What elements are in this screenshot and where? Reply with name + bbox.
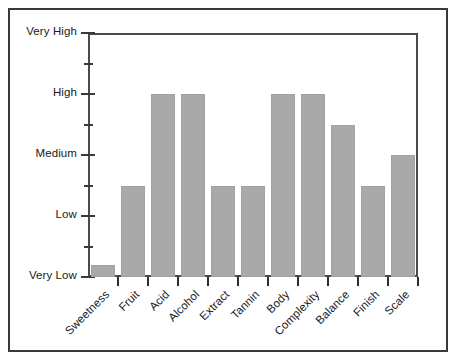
bar: [151, 94, 175, 277]
y-tick-major: [81, 32, 95, 34]
bar: [361, 186, 385, 278]
y-tick-label: High: [53, 86, 77, 98]
x-tick: [177, 277, 179, 286]
x-tick: [117, 277, 119, 286]
y-tick-minor: [84, 185, 93, 187]
y-tick-major: [81, 154, 95, 156]
y-tick-minor: [84, 246, 93, 248]
y-tick-label: Very High: [26, 25, 77, 37]
y-tick-minor: [84, 124, 93, 126]
y-tick-label: Low: [56, 208, 77, 220]
bar: [331, 125, 355, 278]
y-tick-label: Very Low: [29, 269, 77, 281]
x-tick: [267, 277, 269, 286]
bar: [91, 265, 115, 277]
bar: [181, 94, 205, 277]
bar: [271, 94, 295, 277]
figure: Very LowLowMediumHighVery High Sweetness…: [0, 0, 458, 362]
y-tick-major: [81, 215, 95, 217]
bar: [391, 155, 415, 277]
x-tick: [207, 277, 209, 286]
x-tick: [237, 277, 239, 286]
x-tick: [147, 277, 149, 286]
y-tick-major: [81, 93, 95, 95]
x-tick: [327, 277, 329, 286]
x-tick: [387, 277, 389, 286]
bar: [211, 186, 235, 278]
x-tick: [297, 277, 299, 286]
y-tick-label: Medium: [35, 147, 77, 159]
bar: [241, 186, 265, 278]
bar: [301, 94, 325, 277]
bar: [121, 186, 145, 278]
x-tick: [417, 277, 419, 286]
y-tick-minor: [84, 63, 93, 65]
x-tick: [357, 277, 359, 286]
